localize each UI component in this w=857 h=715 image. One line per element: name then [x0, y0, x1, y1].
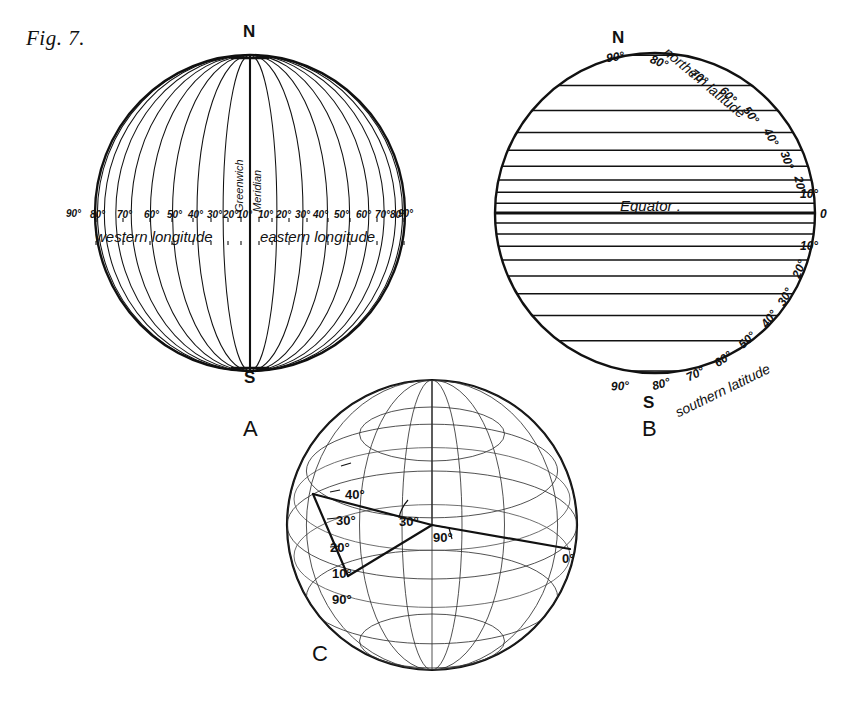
panel-c-globe — [287, 380, 577, 670]
longitude-tick-e-20: 20° — [276, 209, 291, 220]
south-pole-label-b: S — [643, 393, 654, 413]
greenwich-meridian-label-line1: Greenwich — [233, 159, 245, 212]
prime-meridian-label-c: 0° — [562, 551, 574, 566]
longitude-tick-w-60: 60° — [144, 209, 159, 220]
longitude-tick-w-70: 70° — [117, 209, 132, 220]
longitude-tick-e-50: 50° — [334, 209, 349, 220]
longitude-edge-label-west: 90° — [66, 208, 81, 219]
western-longitude-label: western longitude — [95, 228, 213, 245]
figure-caption: Fig. 7. — [26, 26, 85, 51]
greenwich-meridian-label-line2: Meridian — [251, 170, 263, 212]
longitude-tick-w-40: 40° — [188, 209, 203, 220]
longitude-tick-w-20: 20° — [223, 209, 238, 220]
latitude-label-40-c: 40° — [345, 487, 365, 502]
north-pole-label-a: N — [243, 22, 255, 42]
longitude-tick-e-80: 80° — [390, 209, 405, 220]
longitude-tick-e-60: 60° — [356, 209, 371, 220]
latitude-tick-s-90: 90° — [611, 378, 630, 393]
longitude-tick-e-10: 10° — [258, 209, 273, 220]
latitude-label-20-c: 20° — [330, 540, 350, 555]
longitude-tick-w-10: 10° — [237, 209, 252, 220]
longitude-tick-w-30: 30° — [207, 209, 222, 220]
longitude-tick-e-40: 40° — [313, 209, 328, 220]
equator-label: Equator . — [620, 197, 681, 214]
figure-canvas: Fig. 7. N S Greenwich Meridian 90° 90° 8… — [0, 0, 857, 715]
longitude-tick-w-80: 80° — [90, 209, 105, 220]
panel-letter-c: C — [312, 641, 328, 667]
eastern-longitude-label: eastern longitude — [260, 228, 375, 245]
panel-letter-b: B — [642, 416, 657, 442]
latitude-label-10-c: 10° — [332, 566, 352, 581]
equator-value-label: 0 — [820, 207, 827, 221]
angle-label-30-c: 30° — [399, 514, 419, 529]
latitude-tick-s-10: 10° — [800, 239, 818, 253]
longitude-tick-e-70: 70° — [375, 209, 390, 220]
longitude-tick-e-30: 30° — [295, 209, 310, 220]
south-pole-label-a: S — [244, 368, 255, 388]
longitude-tick-w-50: 50° — [167, 209, 182, 220]
north-pole-label-b: N — [612, 28, 624, 48]
angle-label-90-c: 90° — [433, 530, 453, 545]
latitude-label-30-c: 30° — [336, 513, 356, 528]
latitude-tick-n-10: 10° — [800, 187, 818, 201]
latitude-label-origin-c: 90° — [332, 592, 352, 607]
latitude-tick-n-90: 90° — [605, 49, 625, 65]
panel-letter-a: A — [243, 416, 258, 442]
